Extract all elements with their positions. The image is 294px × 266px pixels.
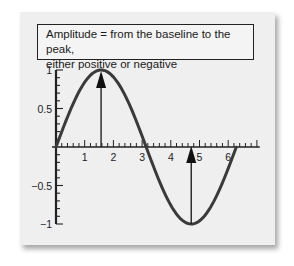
y-tick-label: 0.5 [37,103,52,115]
x-tick-label: 3 [139,151,145,163]
arrow-head-icon [96,71,106,88]
x-tick-label: 4 [168,151,174,163]
axes [52,70,260,224]
y-tick-label: 1 [46,64,52,76]
y-tick-label: −0.5 [31,180,52,192]
x-tick-label: 2 [110,151,116,163]
y-tick-label: −1 [40,218,52,230]
x-tick-label: 5 [197,151,203,163]
arrow-head-icon [186,146,196,163]
sine-chart: 12345610.5−0.5−1 [0,0,294,266]
x-tick-label: 1 [82,151,88,163]
